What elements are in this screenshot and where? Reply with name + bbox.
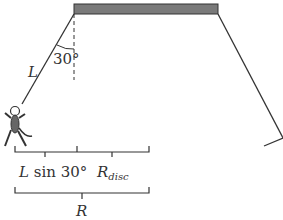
angle-arc [57, 45, 74, 49]
angle-label: 30° [53, 50, 80, 68]
swing-ride-diagram: 30° L L sin 30° Rdisc R [0, 0, 283, 220]
right-rope [218, 14, 283, 138]
lower-bracket [15, 187, 149, 199]
upper-bracket [15, 146, 149, 157]
total-radius-label: R [75, 202, 87, 220]
right-seat [264, 138, 283, 146]
disc-radius-label: Rdisc [96, 163, 129, 182]
rotating-disc [74, 4, 218, 14]
rope-length-label: L [27, 63, 38, 81]
horizontal-offset-label: L sin 30° [18, 163, 87, 181]
rider-figure [5, 107, 32, 147]
